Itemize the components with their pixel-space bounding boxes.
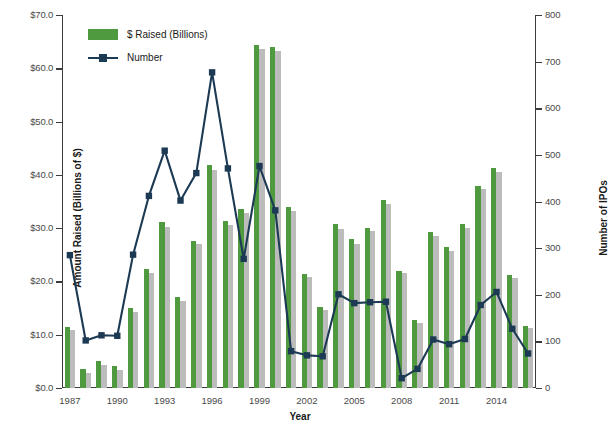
x-axis-tick-label: 2005 bbox=[344, 395, 365, 406]
y-axis-right-tick-label: 200 bbox=[545, 289, 560, 300]
y-axis-right-tick bbox=[536, 155, 542, 156]
bar-group bbox=[441, 15, 457, 388]
x-axis-tick-label: 1990 bbox=[107, 395, 128, 406]
x-axis-tick-label: 2002 bbox=[296, 395, 317, 406]
bar-secondary bbox=[354, 244, 359, 388]
y-axis-left-tick-label: $10.0 bbox=[30, 329, 53, 340]
x-axis-tick-label: 2008 bbox=[391, 395, 412, 406]
bar-secondary bbox=[370, 231, 375, 388]
y-axis-right-tick bbox=[536, 341, 542, 342]
bar-group bbox=[362, 15, 378, 388]
bar-group bbox=[299, 15, 315, 388]
bar-group bbox=[425, 15, 441, 388]
bar-group bbox=[346, 15, 362, 388]
bar-secondary bbox=[323, 310, 328, 388]
bar-secondary bbox=[433, 236, 438, 388]
chart-legend: $ Raised (Billions) Number bbox=[88, 26, 208, 72]
x-axis-tick-label: 1993 bbox=[154, 395, 175, 406]
bar-group bbox=[473, 15, 489, 388]
y-axis-right-tick-label: 100 bbox=[545, 335, 560, 346]
y-axis-left-tick-label: $70.0 bbox=[30, 9, 53, 20]
bar-group bbox=[489, 15, 505, 388]
y-axis-right-tick bbox=[536, 388, 542, 389]
legend-line-marker-icon bbox=[88, 52, 118, 63]
bar-group bbox=[520, 15, 536, 388]
bar-group bbox=[236, 15, 252, 388]
y-axis-right-title: Number of IPOs bbox=[599, 180, 610, 256]
y-axis-left-tick-label: $40.0 bbox=[30, 169, 53, 180]
y-axis-right-tick-label: 700 bbox=[545, 56, 560, 67]
y-axis-right-tick bbox=[536, 108, 542, 109]
legend-swatch-green-icon bbox=[88, 29, 118, 40]
bar-group bbox=[394, 15, 410, 388]
bar-secondary bbox=[117, 370, 122, 388]
bar-group bbox=[410, 15, 426, 388]
y-axis-right-tick bbox=[536, 295, 542, 296]
bar-secondary bbox=[228, 225, 233, 388]
bar-secondary bbox=[528, 328, 533, 388]
bar-secondary bbox=[275, 51, 280, 388]
y-axis-right-tick-label: 800 bbox=[545, 9, 560, 20]
bar-group bbox=[267, 15, 283, 388]
bar-secondary bbox=[417, 323, 422, 388]
bar-group bbox=[62, 15, 78, 388]
y-axis-right-tick bbox=[536, 62, 542, 63]
y-axis-right-tick bbox=[536, 202, 542, 203]
bar-secondary bbox=[259, 49, 264, 388]
y-axis-right-tick-label: 300 bbox=[545, 242, 560, 253]
y-axis-left-tick-label: $20.0 bbox=[30, 275, 53, 286]
legend-label-raised: $ Raised (Billions) bbox=[127, 29, 208, 40]
x-axis-tick-label: 1987 bbox=[59, 395, 80, 406]
y-axis-right-tick-label: 400 bbox=[545, 196, 560, 207]
legend-label-number: Number bbox=[127, 52, 163, 63]
bar-secondary bbox=[402, 273, 407, 388]
bar-secondary bbox=[307, 277, 312, 388]
legend-item-number: Number bbox=[88, 49, 208, 66]
bar-secondary bbox=[149, 273, 154, 388]
y-axis-left-tick-label: $0.0 bbox=[35, 382, 53, 393]
legend-item-raised: $ Raised (Billions) bbox=[88, 26, 208, 43]
x-axis-tick-label: 1996 bbox=[202, 395, 223, 406]
bar-group bbox=[504, 15, 520, 388]
y-axis-right-tick-label: 500 bbox=[545, 149, 560, 160]
bar-secondary bbox=[291, 211, 296, 388]
y-axis-left-tick bbox=[56, 388, 62, 389]
y-axis-right-tick bbox=[536, 15, 542, 16]
bar-secondary bbox=[496, 172, 501, 388]
x-axis-title: Year bbox=[289, 411, 310, 422]
x-axis-tick-label: 1999 bbox=[249, 395, 270, 406]
bar-group bbox=[220, 15, 236, 388]
bar-secondary bbox=[180, 301, 185, 388]
bar-group bbox=[283, 15, 299, 388]
bar-group bbox=[331, 15, 347, 388]
bar-secondary bbox=[449, 251, 454, 388]
bar-secondary bbox=[465, 228, 470, 388]
y-axis-right-tick-label: 600 bbox=[545, 102, 560, 113]
bar-secondary bbox=[212, 170, 217, 388]
x-axis-tick-label: 2014 bbox=[486, 395, 507, 406]
bar-group bbox=[457, 15, 473, 388]
bar-secondary bbox=[86, 373, 91, 388]
bar-secondary bbox=[512, 278, 517, 388]
bar-secondary bbox=[196, 244, 201, 388]
y-axis-right-tick-label: 0 bbox=[545, 382, 550, 393]
bar-secondary bbox=[481, 189, 486, 388]
x-axis-tick-label: 2011 bbox=[439, 395, 459, 406]
bar-secondary bbox=[101, 365, 106, 388]
y-axis-left-tick-label: $30.0 bbox=[30, 222, 53, 233]
bar-secondary bbox=[244, 213, 249, 388]
bar-group bbox=[252, 15, 268, 388]
bar-secondary bbox=[133, 312, 138, 388]
bar-secondary bbox=[70, 330, 75, 388]
bar-group bbox=[378, 15, 394, 388]
bar-secondary bbox=[338, 229, 343, 388]
bar-group bbox=[315, 15, 331, 388]
bar-secondary bbox=[386, 204, 391, 388]
bar-secondary bbox=[165, 227, 170, 388]
y-axis-right-tick bbox=[536, 248, 542, 249]
y-axis-left-tick-label: $60.0 bbox=[30, 62, 53, 73]
y-axis-left-tick-label: $50.0 bbox=[30, 116, 53, 127]
